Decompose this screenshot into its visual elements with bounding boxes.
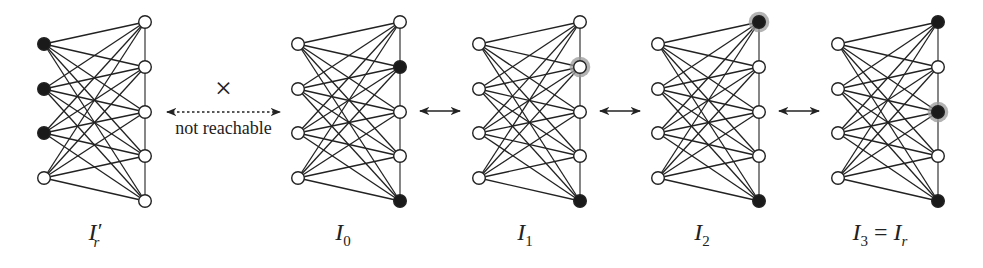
graph-label-I2: I2 [693, 219, 710, 249]
empty-left-node [38, 172, 51, 185]
empty-left-node [473, 127, 486, 140]
edge-line [298, 178, 400, 201]
edge-line [44, 22, 145, 44]
graphs-layer [38, 12, 949, 208]
not-reachable-label: not reachable [175, 118, 271, 138]
edge-line [298, 22, 400, 44]
edge-line [838, 156, 938, 178]
graph-label-I0: I0 [334, 219, 351, 249]
edge-line [479, 22, 580, 89]
edge-line [658, 22, 759, 89]
filled-left-node [38, 83, 51, 96]
empty-right-node [932, 150, 945, 163]
edge-line [479, 156, 580, 178]
edge-line [838, 22, 938, 44]
empty-right-node [139, 195, 152, 208]
empty-left-node [832, 83, 845, 96]
filled-right-node [394, 61, 407, 74]
labels-layer: I′rI0I1I2I3 = Ir [88, 218, 908, 250]
empty-right-node [139, 16, 152, 29]
edge-line [479, 22, 580, 178]
graph-label-I3: I3 = Ir [852, 219, 908, 249]
empty-right-node [394, 16, 407, 29]
not-reachable-arrow: ×not reachable [167, 71, 280, 138]
empty-left-node [832, 172, 845, 185]
edge-line [838, 22, 938, 178]
empty-left-node [292, 127, 305, 140]
empty-left-node [473, 172, 486, 185]
empty-left-node [473, 38, 486, 51]
filled-right-node [932, 16, 945, 29]
empty-left-node [292, 38, 305, 51]
empty-right-node [139, 150, 152, 163]
cross-icon: × [215, 71, 232, 104]
filled-left-node [38, 38, 51, 51]
graph-Ir-prime [38, 16, 152, 208]
filled-right-node [753, 16, 766, 29]
empty-right-node [139, 106, 152, 119]
edge-line [479, 22, 580, 44]
empty-left-node [652, 127, 665, 140]
empty-right-node [574, 16, 587, 29]
edge-line [298, 22, 400, 89]
empty-right-node [574, 61, 587, 74]
filled-right-node [394, 195, 407, 208]
graph-I2 [652, 12, 770, 208]
filled-right-node [932, 106, 945, 119]
filled-right-node [574, 195, 587, 208]
graph-label-I1: I1 [516, 219, 533, 249]
edge-line [838, 22, 938, 89]
edge-line [44, 178, 145, 201]
filled-left-node [38, 127, 51, 140]
edge-line [44, 156, 145, 178]
empty-left-node [292, 172, 305, 185]
empty-right-node [574, 150, 587, 163]
empty-right-node [932, 61, 945, 74]
graph-I0 [292, 16, 407, 208]
empty-right-node [753, 61, 766, 74]
empty-right-node [394, 106, 407, 119]
edge-line [658, 22, 759, 44]
edge-line [298, 156, 400, 178]
empty-right-node [753, 106, 766, 119]
edge-line [658, 22, 759, 178]
filled-right-node [753, 195, 766, 208]
empty-left-node [652, 172, 665, 185]
edge-line [298, 22, 400, 178]
graph-I3 [832, 16, 949, 208]
empty-left-node [832, 38, 845, 51]
bipartite-sequence-diagram: ×not reachable I′rI0I1I2I3 = Ir [0, 0, 983, 268]
empty-left-node [292, 83, 305, 96]
edge-line [658, 156, 759, 178]
edge-line [658, 178, 759, 201]
empty-left-node [473, 83, 486, 96]
edge-line [44, 22, 145, 89]
filled-right-node [932, 195, 945, 208]
empty-right-node [139, 61, 152, 74]
empty-left-node [652, 38, 665, 51]
empty-right-node [394, 150, 407, 163]
empty-left-node [832, 127, 845, 140]
edge-line [479, 178, 580, 201]
graph-label-Ir-prime: I′r [88, 218, 103, 250]
empty-right-node [753, 150, 766, 163]
empty-left-node [652, 83, 665, 96]
empty-right-node [574, 106, 587, 119]
edge-line [838, 178, 938, 201]
edge-line [44, 22, 145, 178]
graph-I1 [473, 16, 591, 208]
